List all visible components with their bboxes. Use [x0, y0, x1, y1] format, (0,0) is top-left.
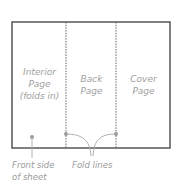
back-line-2: Page [67, 85, 116, 97]
interior-line-3: (folds in) [13, 90, 66, 102]
trifold-sheet-diagram: Interior Page (folds in) Back Page Cover… [0, 0, 183, 194]
fold-lines-label: Fold lines [72, 159, 112, 171]
panel-label-cover: Cover Page [117, 73, 170, 97]
panel-label-back: Back Page [67, 73, 116, 97]
interior-line-1: Interior [13, 66, 66, 78]
back-line-1: Back [67, 73, 116, 85]
callout-front-side: Front side of sheet [12, 159, 54, 183]
cover-line-2: Page [117, 85, 170, 97]
callout-fold-lines: Fold lines [72, 159, 112, 171]
front-side-line-1: Front side [12, 159, 54, 171]
interior-line-2: Page [13, 78, 66, 90]
front-side-line-2: of sheet [12, 171, 54, 183]
panel-label-interior: Interior Page (folds in) [13, 66, 66, 102]
cover-line-1: Cover [117, 73, 170, 85]
